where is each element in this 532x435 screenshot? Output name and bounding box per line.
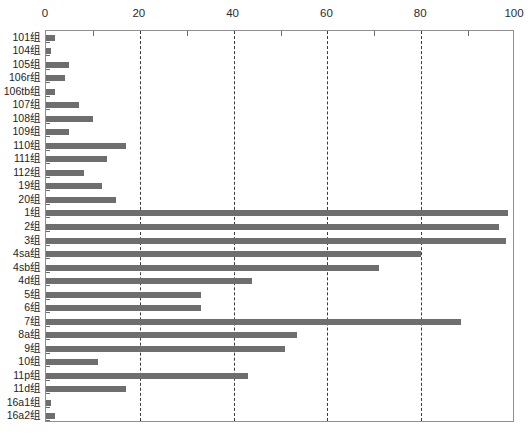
y-minor-tick <box>46 204 50 205</box>
bar <box>46 170 84 176</box>
bar <box>46 156 107 162</box>
y-minor-tick <box>46 407 50 408</box>
bar <box>46 346 285 352</box>
y-tick-label: 106r组 <box>9 72 40 82</box>
y-minor-tick <box>46 353 50 354</box>
x-tick-label: 60 <box>320 6 333 20</box>
y-minor-tick <box>46 231 50 232</box>
bar <box>46 48 51 54</box>
y-tick-label: 110组 <box>13 140 40 150</box>
y-minor-tick <box>46 393 50 394</box>
y-tick-label: 101组 <box>12 32 40 42</box>
y-tick-label: 9组 <box>24 343 40 353</box>
bar <box>46 400 51 406</box>
x-tick-label: 20 <box>132 6 145 20</box>
x-axis-tick-labels: 020406080100 <box>0 6 532 28</box>
x-tick-label: 100 <box>504 6 523 20</box>
bar <box>46 413 55 419</box>
y-tick-label: 16a1组 <box>7 397 40 407</box>
y-tick-label: 19组 <box>18 180 40 190</box>
bar <box>46 265 379 271</box>
y-tick-label: 104组 <box>12 45 40 55</box>
y-minor-tick <box>46 366 50 367</box>
bar <box>46 129 69 135</box>
y-tick-label: 3组 <box>24 235 40 245</box>
y-minor-tick <box>46 136 50 137</box>
bar <box>46 292 201 298</box>
y-minor-tick <box>46 150 50 151</box>
bar <box>46 386 126 392</box>
y-tick-label: 1组 <box>24 207 40 217</box>
y-minor-tick <box>46 69 50 70</box>
y-tick-label: 4sb组 <box>13 262 40 272</box>
bar <box>46 224 499 230</box>
bar <box>46 373 248 379</box>
y-minor-tick <box>46 177 50 178</box>
y-minor-tick <box>46 312 50 313</box>
x-minor-tick <box>468 31 469 36</box>
bar <box>46 183 102 189</box>
y-tick-label: 106tb组 <box>4 86 40 96</box>
bar <box>46 238 506 244</box>
y-minor-tick <box>46 272 50 273</box>
y-tick-label: 16a2组 <box>7 410 40 420</box>
bar <box>46 278 252 284</box>
y-tick-label: 6组 <box>24 302 40 312</box>
y-tick-label: 11d组 <box>13 383 40 393</box>
bar <box>46 197 116 203</box>
y-tick-label: 4d组 <box>18 275 40 285</box>
bar <box>46 89 55 95</box>
bar <box>46 332 297 338</box>
y-minor-tick <box>46 285 50 286</box>
x-minor-tick <box>187 31 188 36</box>
bar <box>46 62 69 68</box>
bar-chart: 020406080100 101组104组105组106r组106tb组107组… <box>0 0 532 435</box>
y-minor-tick <box>46 258 50 259</box>
y-tick-label: 109组 <box>12 126 40 136</box>
y-minor-tick <box>46 217 50 218</box>
x-tick-label: 40 <box>226 6 239 20</box>
y-minor-tick <box>46 420 50 421</box>
x-minor-tick <box>374 31 375 36</box>
bar <box>46 102 79 108</box>
y-minor-tick <box>46 123 50 124</box>
bar <box>46 359 98 365</box>
y-minor-tick <box>46 299 50 300</box>
bar <box>46 116 93 122</box>
x-tick-label: 0 <box>42 6 48 20</box>
bar <box>46 143 126 149</box>
y-minor-tick <box>46 190 50 191</box>
y-tick-label: 112组 <box>13 167 40 177</box>
y-minor-tick <box>46 380 50 381</box>
bar <box>46 305 201 311</box>
bar <box>46 35 55 41</box>
x-tick-label: 80 <box>414 6 427 20</box>
y-minor-tick <box>46 245 50 246</box>
y-tick-label: 8a组 <box>18 329 40 339</box>
y-minor-tick <box>46 42 50 43</box>
bar <box>46 251 421 257</box>
y-tick-label: 107组 <box>12 99 40 109</box>
y-tick-label: 4sa组 <box>13 248 40 258</box>
y-tick-label: 111组 <box>14 153 40 163</box>
y-minor-tick <box>46 55 50 56</box>
bar <box>46 319 461 325</box>
x-minor-tick <box>281 31 282 36</box>
y-tick-label: 105组 <box>12 59 40 69</box>
y-minor-tick <box>46 109 50 110</box>
y-tick-label: 5组 <box>24 289 40 299</box>
y-minor-tick <box>46 82 50 83</box>
y-tick-label: 11p组 <box>13 370 40 380</box>
y-tick-label: 20组 <box>18 194 40 204</box>
y-minor-tick <box>46 339 50 340</box>
bar <box>46 210 508 216</box>
bar <box>46 75 65 81</box>
y-minor-tick <box>46 96 50 97</box>
x-minor-tick <box>93 31 94 36</box>
plot-area <box>45 30 514 422</box>
y-tick-label: 108组 <box>12 113 40 123</box>
y-tick-label: 2组 <box>24 221 40 231</box>
y-tick-label: 7组 <box>24 316 40 326</box>
y-tick-label: 10组 <box>18 356 40 366</box>
y-minor-tick <box>46 326 50 327</box>
